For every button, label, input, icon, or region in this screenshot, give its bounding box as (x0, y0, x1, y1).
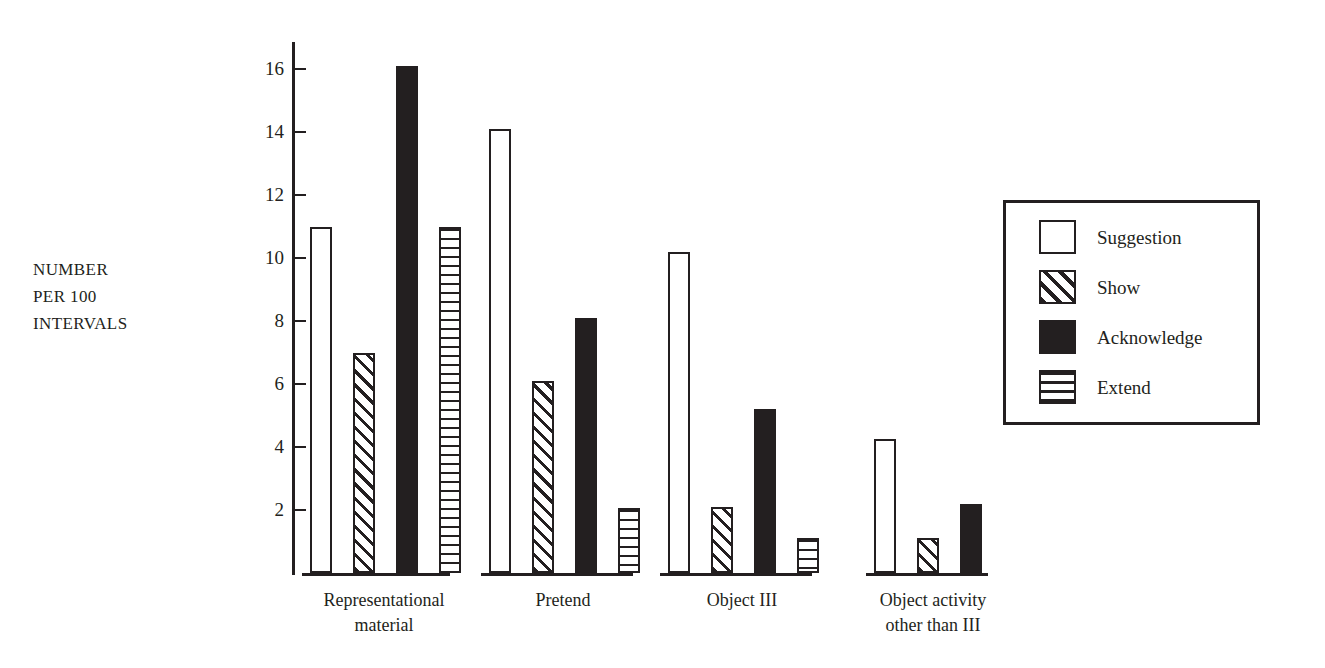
bar-show (917, 538, 939, 573)
bar-group (668, 42, 816, 576)
bar-show (532, 381, 554, 573)
bar-group (489, 42, 637, 576)
y-tick-label: 14 (238, 122, 284, 141)
bar-suggestion (874, 439, 896, 573)
bar-acknowledge (575, 318, 597, 573)
legend-swatch-suggestion-icon (1039, 220, 1076, 254)
bar-group-bars (668, 42, 816, 573)
y-tick-mark (295, 320, 306, 322)
legend-swatch-extend-icon (1039, 370, 1076, 404)
y-tick-mark (295, 194, 306, 196)
legend-item-suggestion[interactable]: Suggestion (1039, 217, 1181, 257)
legend-swatch-acknowledge-icon (1039, 320, 1076, 354)
bar-group-bars (489, 42, 637, 573)
y-tick-label: 10 (238, 248, 284, 267)
bar-acknowledge (960, 504, 982, 573)
bar-extend (618, 508, 640, 573)
group-caption: Object activityother than III (814, 588, 1052, 638)
bar-acknowledge (396, 66, 418, 573)
legend-item-show[interactable]: Show (1039, 267, 1140, 307)
group-baseline (660, 573, 812, 576)
bar-acknowledge (754, 409, 776, 573)
group-baseline (481, 573, 633, 576)
y-tick-mark (295, 383, 306, 385)
legend-item-acknowledge[interactable]: Acknowledge (1039, 317, 1203, 357)
group-caption-line: other than III (814, 613, 1052, 638)
y-tick-label: 8 (238, 311, 284, 330)
y-tick-mark (295, 509, 306, 511)
legend: SuggestionShowAcknowledgeExtend (1003, 200, 1260, 425)
legend-item-extend[interactable]: Extend (1039, 367, 1151, 407)
y-tick-mark (295, 131, 306, 133)
bar-group-bars (310, 42, 458, 573)
bar-suggestion (489, 129, 511, 573)
y-tick-mark (295, 68, 306, 70)
y-axis-spine (292, 42, 295, 575)
bar-group-bars (874, 42, 992, 573)
y-tick-label: 4 (238, 437, 284, 456)
y-tick-label: 2 (238, 500, 284, 519)
group-caption-line: Object activity (814, 588, 1052, 613)
bar-extend (439, 227, 461, 574)
group-caption-line: material (250, 613, 518, 638)
group-baseline (866, 573, 988, 576)
bar-suggestion (668, 252, 690, 573)
y-tick-label: 12 (238, 185, 284, 204)
legend-label: Show (1097, 278, 1140, 297)
legend-label: Suggestion (1097, 228, 1181, 247)
y-tick-label: 16 (238, 59, 284, 78)
y-tick-mark (295, 446, 306, 448)
y-tick-label: 6 (238, 374, 284, 393)
bar-extend (797, 538, 819, 573)
group-baseline (302, 573, 450, 576)
bar-group (874, 42, 992, 576)
legend-swatch-show-icon (1039, 270, 1076, 304)
legend-label: Extend (1097, 378, 1151, 397)
bar-show (711, 507, 733, 573)
chart-page: NUMBER PER 100 INTERVALS 246810121416 Re… (0, 0, 1325, 668)
bar-show (353, 353, 375, 574)
y-tick-mark (295, 257, 306, 259)
legend-label: Acknowledge (1097, 328, 1203, 347)
bar-group (310, 42, 458, 576)
bar-suggestion (310, 227, 332, 574)
